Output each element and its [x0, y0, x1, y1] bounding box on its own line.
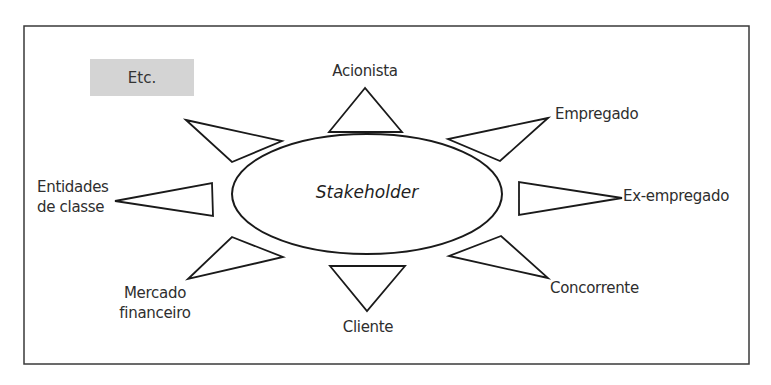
etc-box: Etc.: [90, 59, 194, 96]
triangle-mercado-financeiro: [188, 237, 283, 279]
label-concorrente: Concorrente: [550, 278, 639, 298]
label-entidades-line2: de classe: [37, 197, 109, 217]
triangle-concorrente: [449, 236, 548, 278]
triangle-acionista: [329, 88, 402, 132]
label-acionista: Acionista: [325, 61, 405, 81]
label-empregado: Empregado: [555, 104, 638, 124]
label-mercado-financeiro: Mercado financeiro: [112, 283, 198, 323]
triangle-ex-empregado: [519, 182, 622, 215]
label-mercado-line1: Mercado: [112, 283, 198, 303]
label-entidades-de-classe: Entidades de classe: [37, 177, 109, 217]
triangle-entidades-de-classe: [115, 183, 213, 216]
etc-label: Etc.: [128, 69, 156, 87]
label-cliente: Cliente: [330, 317, 406, 337]
label-entidades-line1: Entidades: [37, 177, 109, 197]
triangle-cliente: [330, 266, 405, 311]
stakeholder-label: Stakeholder: [232, 182, 502, 202]
label-ex-empregado: Ex-empregado: [623, 186, 729, 206]
label-mercado-line2: financeiro: [112, 303, 198, 323]
